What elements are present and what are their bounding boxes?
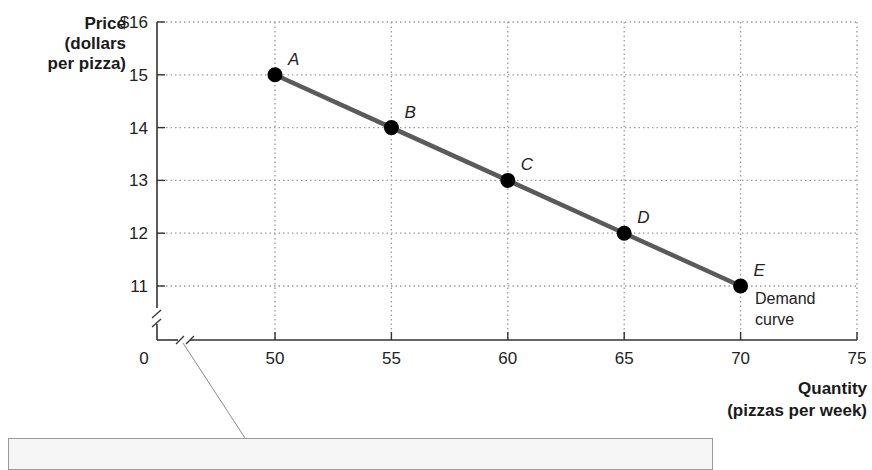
y-axis-break [152, 310, 161, 318]
point-label-e: E [754, 261, 766, 280]
y-tick-label: $16 [120, 13, 148, 32]
data-point-b [384, 120, 399, 135]
x-axis-label-line: (pizzas per week) [727, 400, 867, 422]
data-point-e [733, 279, 748, 294]
x-tick-label: 65 [615, 349, 634, 368]
x-axis-label: Quantity (pizzas per week) [727, 378, 867, 422]
x-tick-label: 75 [848, 349, 867, 368]
data-point-a [268, 67, 283, 82]
data-point-c [500, 173, 515, 188]
callout-box [8, 438, 713, 470]
x-tick-label: 0 [139, 349, 148, 368]
x-tick-label: 55 [382, 349, 401, 368]
point-label-d: D [637, 208, 649, 227]
x-tick-label: 70 [731, 349, 750, 368]
x-tick-label: 60 [498, 349, 517, 368]
y-tick-label: 15 [129, 66, 148, 85]
demand-curve-annotation: Demand [755, 290, 815, 307]
y-tick-label: 12 [129, 224, 148, 243]
y-tick-label: 11 [130, 277, 148, 296]
point-label-b: B [404, 103, 415, 122]
point-label-a: A [287, 50, 299, 69]
demand-series: ABCDEDemandcurve [268, 50, 816, 328]
x-tick-label: 50 [266, 349, 285, 368]
y-tick-label: 14 [129, 119, 148, 138]
y-tick-label: 13 [129, 171, 148, 190]
x-axis-label-line: Quantity [727, 378, 867, 400]
demand-curve-annotation: curve [755, 311, 794, 328]
data-point-d [617, 226, 632, 241]
callout-pointer [183, 343, 245, 438]
point-label-c: C [521, 155, 534, 174]
